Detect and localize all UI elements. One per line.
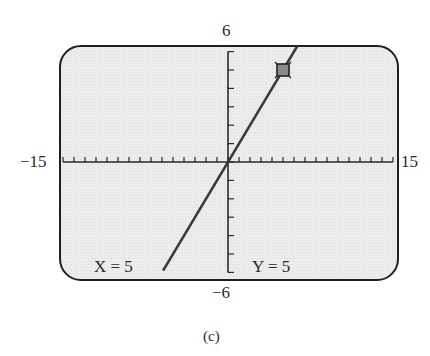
figure-caption: (c) [203,329,220,344]
trace-cursor-icon [275,62,291,78]
graph-plot [0,0,430,356]
trace-x-readout: X = 5 [94,258,133,275]
function-line [163,46,297,270]
trace-y-readout: Y = 5 [252,258,290,275]
